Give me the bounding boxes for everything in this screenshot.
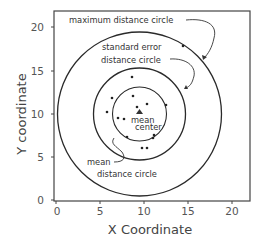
- spatial-distribution-diagram: 0 5 10 15 20 0 5 10 15 20 X Coordinate Y…: [0, 0, 262, 246]
- y-tick-label: 0: [37, 194, 44, 206]
- data-point: [131, 76, 134, 79]
- data-point: [117, 117, 120, 120]
- data-point: [165, 104, 168, 107]
- data-point: [132, 95, 135, 98]
- x-tick-label: 20: [225, 205, 238, 217]
- data-point: [152, 137, 155, 140]
- data-point: [123, 118, 126, 121]
- data-point: [141, 147, 144, 150]
- x-tick-label: 5: [97, 205, 104, 217]
- y-tick-label: 5: [37, 151, 44, 163]
- data-point: [106, 111, 109, 114]
- annotation-se-circle-line2: distance circle: [101, 55, 161, 65]
- data-point: [182, 45, 185, 48]
- data-point: [136, 106, 139, 109]
- annotation-mean-center-line2: center: [135, 122, 162, 132]
- arrow-maximum-distance: [186, 20, 215, 58]
- data-point: [111, 97, 114, 100]
- x-tick-label: 10: [137, 205, 150, 217]
- annotation-mean-circle-line2: distance circle: [97, 169, 157, 179]
- data-point: [153, 134, 156, 137]
- y-tick-label: 20: [31, 21, 44, 33]
- annotation-mean-circle-line1: mean: [87, 157, 111, 167]
- x-tick-label: 15: [181, 205, 194, 217]
- y-axis-title: Y coordinate: [14, 73, 29, 155]
- y-tick-label: 10: [31, 108, 44, 120]
- data-point: [146, 147, 149, 150]
- arrow-mean-circle: [113, 138, 124, 162]
- x-axis-title: X Coordinate: [108, 222, 192, 237]
- y-tick-label: 15: [31, 65, 44, 77]
- annotation-se-circle-line1: standard error: [102, 42, 162, 52]
- annotation-maximum-distance-circle: maximum distance circle: [69, 15, 173, 25]
- data-point: [126, 136, 129, 139]
- data-point: [146, 103, 149, 106]
- x-tick-label: 0: [54, 205, 61, 217]
- mean-center-triangle-icon: [136, 109, 143, 114]
